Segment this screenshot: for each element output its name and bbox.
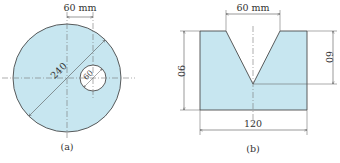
figure-b: 60 mm 90 60 120 (b) xyxy=(176,2,337,154)
top-dimension-label: 60 mm xyxy=(63,2,96,13)
figure-b-caption: (b) xyxy=(246,143,260,154)
top-dimension-label: 60 mm xyxy=(236,2,269,13)
bottom-width-label: 120 xyxy=(244,118,262,129)
left-height-label: 90 xyxy=(176,65,187,77)
diagram-canvas: 60 mm 240 60 (a) 60 mm 90 60 120 ( xyxy=(0,0,340,163)
right-height-label: 60 xyxy=(324,51,335,63)
figure-a: 60 mm 240 60 (a) xyxy=(2,2,135,152)
figure-a-caption: (a) xyxy=(60,141,73,152)
v-notch-block xyxy=(200,31,307,110)
